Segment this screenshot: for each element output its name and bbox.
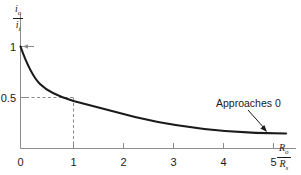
plot-canvas: [0, 0, 301, 175]
x-tick-label-0: 0: [17, 157, 23, 168]
chart-figure: io ii Ro Rs 1 0.5 0 1 2 3 4 5 Approaches…: [0, 0, 301, 175]
x-axis-ticks: [74, 143, 274, 149]
y-tick-label-1: 1: [2, 41, 16, 52]
curve-origin-arrow: [23, 44, 34, 48]
y-axis-label-denominator: ii: [13, 19, 23, 33]
x-axis-label-numerator: Ro: [277, 143, 291, 157]
x-tick-label-5: 5: [270, 157, 276, 168]
x-tick-label-2: 2: [120, 157, 126, 168]
x-axis-label: Ro Rs: [277, 143, 291, 172]
guide-line-group: [21, 98, 74, 149]
y-tick-label-0.5: 0.5: [0, 92, 16, 103]
annotation-arrow: [248, 110, 267, 132]
x-tick-label-3: 3: [170, 157, 176, 168]
x-tick-label-4: 4: [220, 157, 226, 168]
y-axis-label-numerator: io: [13, 4, 23, 18]
x-axis-label-denominator: Rs: [277, 158, 291, 172]
x-tick-label-1: 1: [70, 157, 76, 168]
decay-curve: [21, 47, 287, 134]
y-axis-label: io ii: [13, 4, 23, 33]
annotation-approaches-zero: Approaches 0: [216, 98, 281, 109]
